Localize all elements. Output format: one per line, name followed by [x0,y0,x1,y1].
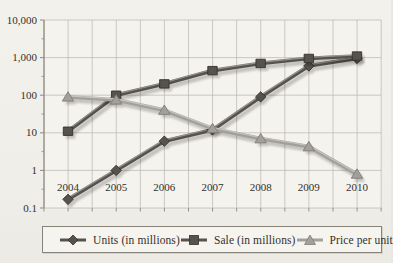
triangle-marker-icon [296,234,324,246]
x-tick-label: 2008 [250,181,273,193]
square-data-point [63,127,72,135]
square-data-point [160,80,169,88]
square-marker-icon [180,234,208,246]
x-tick-label: 2007 [202,181,225,193]
y-tick-label: 100 [21,89,38,101]
y-tick-label: 1 [32,164,38,176]
square-data-point [256,59,265,67]
square-data-point [352,52,361,60]
legend-label-sale: Sale (in millions) [214,234,296,246]
chart-legend: Units (in millions) Sale (in millions) P… [42,226,382,253]
y-tick-label: 10,000 [7,14,38,26]
legend-item-sale: Sale (in millions) [180,234,296,246]
y-tick-label: 0.1 [23,202,37,214]
square-data-point [304,54,313,62]
diamond-marker-icon [59,234,87,246]
y-tick-label: 10 [26,126,38,138]
y-tick-label: 1,000 [12,51,37,63]
legend-label-units: Units (in millions) [93,234,180,246]
legend-item-units: Units (in millions) [59,234,180,246]
x-tick-label: 2004 [57,181,80,193]
x-tick-label: 2010 [346,181,369,193]
legend-label-price: Price per unit [330,234,393,246]
square-data-point [208,66,217,74]
x-tick-label: 2005 [105,181,128,193]
x-tick-label: 2009 [298,181,321,193]
x-tick-label: 2006 [153,181,176,193]
legend-item-price: Price per unit [296,234,393,246]
